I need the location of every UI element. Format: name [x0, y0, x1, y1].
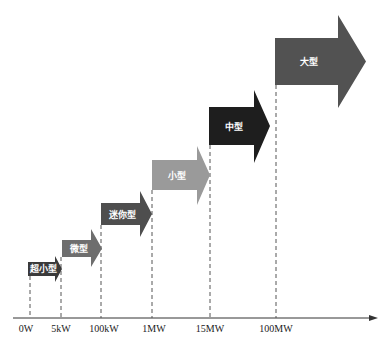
arrow-label: 大型 [300, 56, 318, 67]
tick-label: 15MW [196, 323, 225, 334]
category-arrow: 超小型 [28, 256, 62, 282]
tick-label: 5kW [51, 323, 71, 334]
arrow-shape [275, 15, 366, 108]
arrow-label: 超小型 [29, 263, 57, 274]
category-arrow: 大型 [275, 15, 366, 108]
arrow-label: 迷你型 [108, 209, 136, 220]
tick-label: 100kW [89, 323, 119, 334]
category-arrow: 小型 [152, 146, 210, 205]
tick-label: 100MW [259, 323, 293, 334]
arrow-label: 小型 [167, 170, 186, 181]
category-arrow: 迷你型 [101, 191, 152, 237]
tick-label: 1MW [142, 323, 166, 334]
category-arrow: 中型 [209, 90, 270, 163]
x-axis-arrowhead [369, 315, 378, 321]
power-scale-diagram: 超小型微型迷你型小型中型大型 0W5kW100kW1MW15MW100MW [0, 0, 386, 344]
category-arrow: 微型 [62, 229, 102, 267]
arrow-label: 中型 [225, 121, 243, 132]
arrow-label: 微型 [69, 243, 88, 254]
tick-label: 0W [19, 323, 34, 334]
